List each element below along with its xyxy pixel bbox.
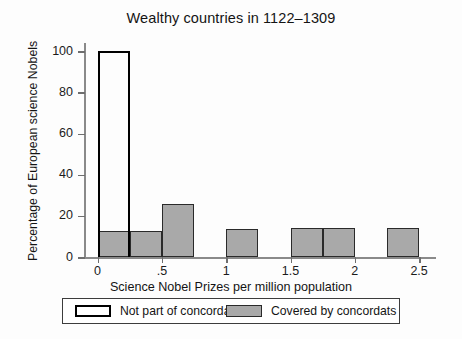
x-tick-mark-0 (98, 257, 100, 263)
y-tick-mark-0 (78, 257, 85, 259)
y-tick-label-0: 0 (66, 251, 73, 264)
chart-figure: Wealthy countries in 1122–1309 Percentag… (0, 0, 462, 339)
y-tick-label-4: 80 (59, 86, 73, 99)
y-tick-label-5: 100 (52, 45, 73, 58)
x-tick-label-0: 0 (78, 264, 118, 278)
y-tick-mark-3 (78, 134, 85, 136)
legend-label-1: Covered by concordats (271, 304, 396, 318)
legend-swatch-hollow (75, 305, 111, 317)
bar-filled-3 (226, 229, 258, 257)
y-axis-line (84, 43, 86, 258)
y-tick-mark-2 (78, 175, 85, 177)
plot-area (86, 45, 432, 257)
legend-entry-covered-by-concordats: Covered by concordats (226, 299, 396, 323)
y-tick-label-2: 40 (59, 168, 73, 181)
x-tick-mark-5 (419, 257, 421, 263)
x-axis-line (80, 257, 436, 259)
legend-swatch-filled (226, 305, 262, 317)
bar-filled-4 (291, 228, 323, 257)
legend-entry-not-part-of-concordats: Not part of concordats (75, 299, 240, 323)
chart-legend: Not part of concordats Covered by concor… (62, 298, 400, 324)
y-tick-mark-5 (78, 51, 85, 53)
x-axis-label: Science Nobel Prizes per million populat… (0, 280, 462, 294)
bar-filled-2 (162, 204, 194, 257)
chart-title: Wealthy countries in 1122–1309 (0, 10, 462, 26)
x-tick-mark-4 (355, 257, 357, 263)
x-tick-mark-2 (226, 257, 228, 263)
bar-hollow-0 (98, 51, 130, 257)
x-tick-label-4: 2 (335, 264, 375, 278)
y-tick-mark-4 (78, 92, 85, 94)
bar-filled-1 (130, 231, 162, 257)
x-tick-mark-3 (291, 257, 293, 263)
bar-filled-6 (387, 228, 419, 257)
legend-label-0: Not part of concordats (120, 304, 240, 318)
y-tick-label-1: 20 (59, 209, 73, 222)
plot-background (86, 45, 432, 257)
x-tick-label-2: 1 (206, 264, 246, 278)
x-tick-label-5: 2.5 (399, 264, 439, 278)
x-tick-mark-1 (162, 257, 164, 263)
x-tick-label-3: 1.5 (271, 264, 311, 278)
y-axis-label: Percentage of European science Nobels (26, 49, 40, 261)
y-tick-mark-1 (78, 216, 85, 218)
bar-filled-5 (323, 228, 355, 257)
y-tick-label-3: 60 (59, 127, 73, 140)
x-tick-label-1: .5 (142, 264, 182, 278)
